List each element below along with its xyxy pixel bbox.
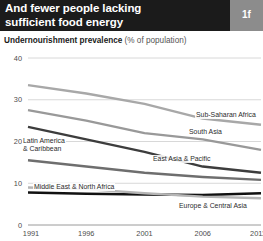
y-axis-tick-label: 20: [0, 137, 22, 146]
series-label: East Asia & Pacific: [152, 155, 211, 163]
figure-number-label: 1f: [230, 9, 263, 20]
y-axis-tick-label: 10: [0, 179, 22, 188]
series-label: Latin America& Caribbean: [22, 137, 66, 153]
figure-number-badge: 1f: [230, 0, 263, 31]
series-label-line: & Caribbean: [23, 145, 65, 153]
series-label: South Asia: [188, 128, 223, 136]
axis-subtitle-bold: Undernourishment prevalence: [4, 36, 122, 45]
x-axis-tick-label: 2006: [183, 229, 223, 238]
series-label-line: Latin America: [23, 137, 65, 145]
axis-subtitle: Undernourishment prevalence (% of popula…: [4, 36, 186, 45]
figure-title-line-1: And fewer people lacking: [5, 2, 219, 16]
chart-figure: And fewer people lacking sufficient food…: [0, 0, 263, 241]
x-axis-tick-label: 1991: [11, 229, 51, 238]
x-axis-tick-label: 2001: [125, 229, 165, 238]
axis-subtitle-units: (% of population): [122, 36, 186, 45]
x-axis-tick-label: 1996: [66, 229, 106, 238]
plot-area: 010203040 19911996200120062011 Sub-Sahar…: [0, 50, 263, 241]
series-label: Middle East & North Africa: [33, 183, 115, 191]
y-axis-tick-label: 30: [0, 95, 22, 104]
series-label: Europe & Central Asia: [178, 202, 248, 210]
series-label: Sub-Saharan Africa: [195, 111, 257, 119]
x-axis-tick-label: 2011: [238, 229, 263, 238]
figure-title-line-2: sufficient food energy: [5, 16, 219, 30]
figure-title: And fewer people lacking sufficient food…: [5, 2, 219, 29]
y-axis-tick-label: 40: [0, 54, 22, 63]
figure-header: And fewer people lacking sufficient food…: [0, 0, 263, 31]
